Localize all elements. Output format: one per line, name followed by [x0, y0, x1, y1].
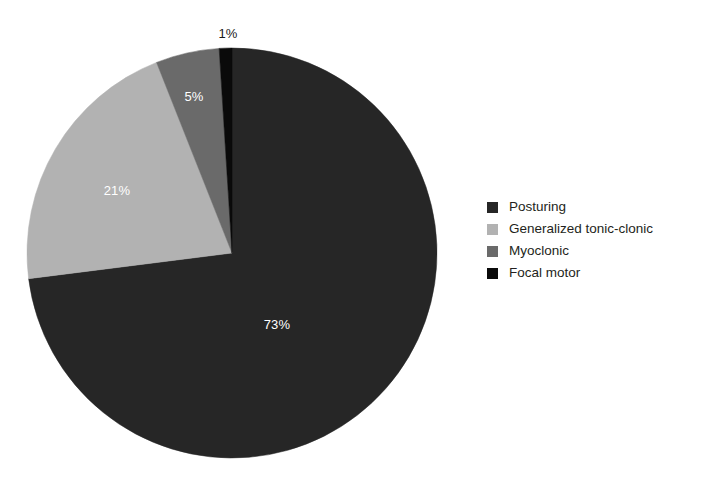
- legend-swatch-icon: [487, 224, 498, 235]
- legend-item-label: Generalized tonic-clonic: [509, 222, 653, 236]
- chart-legend: PosturingGeneralized tonic-clonicMyoclon…: [487, 196, 697, 284]
- legend-item-myoclonic[interactable]: Myoclonic: [487, 240, 697, 262]
- pie-chart-svg: [0, 0, 470, 484]
- legend-swatch-icon: [487, 246, 498, 257]
- legend-swatch-icon: [487, 202, 498, 213]
- legend-item-label: Posturing: [509, 200, 566, 214]
- legend-item-focal-motor[interactable]: Focal motor: [487, 262, 697, 284]
- legend-item-generalized-tonic-clonic[interactable]: Generalized tonic-clonic: [487, 218, 697, 240]
- pie-chart-figure: 73%21%5%1% PosturingGeneralized tonic-cl…: [0, 0, 704, 484]
- legend-item-label: Focal motor: [509, 266, 580, 280]
- legend-item-posturing[interactable]: Posturing: [487, 196, 697, 218]
- legend-swatch-icon: [487, 268, 498, 279]
- pie-plot-area: 73%21%5%1%: [0, 0, 470, 484]
- legend-item-label: Myoclonic: [509, 244, 569, 258]
